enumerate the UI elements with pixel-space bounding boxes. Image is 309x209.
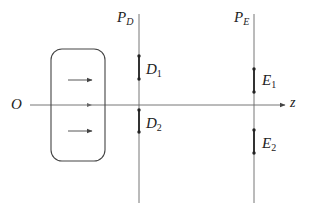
segment-e1-label-sub: 1	[271, 79, 276, 90]
plane-pd-label-sub: D	[126, 16, 133, 27]
segment-e2-label-sub: 2	[271, 142, 276, 153]
plane-pe-label: PE	[234, 10, 249, 27]
axis-z-label: z	[290, 96, 295, 110]
segment-d2-label-main: D	[146, 115, 157, 131]
plane-pe-label-main: P	[234, 9, 243, 25]
segment-d1-end-bottom	[137, 77, 140, 80]
diagram-canvas	[0, 0, 309, 209]
segment-d1-label-sub: 1	[157, 68, 162, 79]
segment-d2-label: D2	[146, 116, 162, 133]
axis-arrowhead-icon	[87, 103, 92, 107]
segment-e2-end-bottom	[252, 151, 255, 154]
segment-e1-end-top	[252, 67, 255, 70]
plane-pe-label-sub: E	[243, 16, 249, 27]
segment-d1-end-top	[137, 54, 140, 57]
segment-d1-label-main: D	[146, 61, 157, 77]
plane-pd-label: PD	[117, 10, 133, 27]
segment-d2-end-bottom	[137, 130, 140, 133]
origin-label: O	[11, 97, 22, 112]
segment-d1-label: D1	[146, 62, 162, 79]
segment-e1-label: E1	[262, 73, 276, 90]
segment-e2-label-main: E	[262, 135, 271, 151]
segment-e1-label-main: E	[262, 72, 271, 88]
plane-pd-label-main: P	[117, 9, 126, 25]
segment-d2-end-top	[137, 108, 140, 111]
segment-e2-end-top	[252, 128, 255, 131]
segment-e2-label: E2	[262, 136, 276, 153]
segment-e1-end-bottom	[252, 90, 255, 93]
axis-z-label-text: z	[290, 95, 295, 110]
origin-label-text: O	[11, 96, 22, 112]
segment-d2-label-sub: 2	[157, 122, 162, 133]
